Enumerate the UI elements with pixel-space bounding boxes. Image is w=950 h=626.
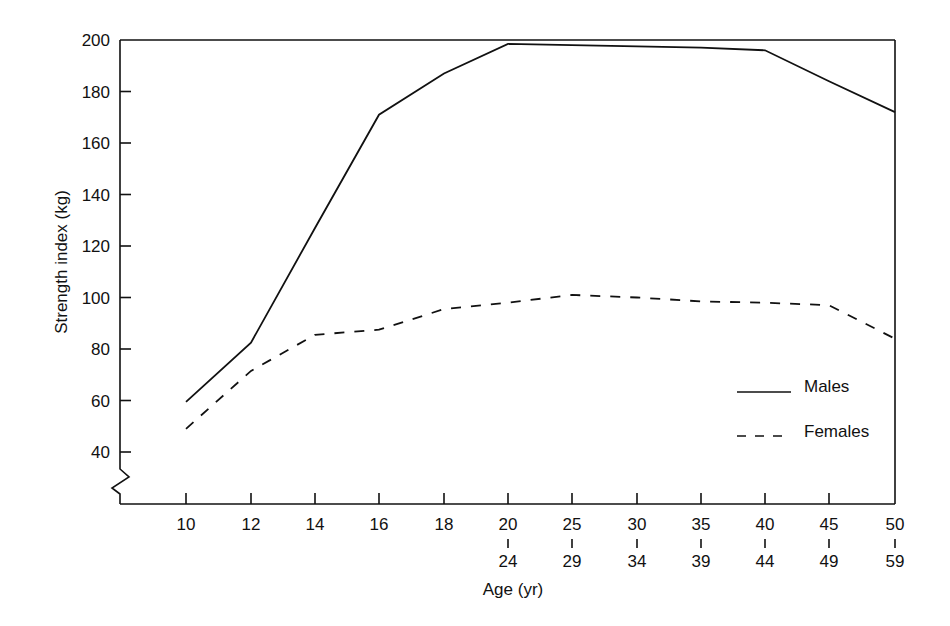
x-tick-label-top: 10 (177, 515, 196, 534)
series-line-females (186, 295, 895, 429)
x-tick-label-bottom: 59 (886, 552, 905, 571)
y-tick-label: 100 (82, 289, 110, 308)
x-tick-label-top: 12 (242, 515, 261, 534)
plot-frame (112, 40, 895, 504)
x-tick-label-bottom: 34 (628, 552, 647, 571)
x-tick-label-top: 30 (628, 515, 647, 534)
y-tick-label: 200 (82, 31, 110, 50)
x-tick-label-bottom: 29 (563, 552, 582, 571)
legend: Males Females (737, 377, 869, 441)
y-axis-ticks: 406080100120140160180200 (82, 31, 131, 462)
x-tick-label-top: 45 (820, 515, 839, 534)
x-tick-label-top: 20 (499, 515, 518, 534)
x-tick-label-bottom: 44 (756, 552, 775, 571)
x-tick-label-bottom: 39 (692, 552, 711, 571)
y-tick-label: 160 (82, 134, 110, 153)
y-tick-label: 180 (82, 83, 110, 102)
y-tick-label: 140 (82, 186, 110, 205)
x-tick-label-top: 18 (435, 515, 454, 534)
series-line-males (186, 44, 895, 402)
x-tick-label-bottom: 24 (499, 552, 518, 571)
x-tick-label-top: 16 (370, 515, 389, 534)
x-tick-label-bottom: 49 (820, 552, 839, 571)
y-tick-label: 40 (91, 443, 110, 462)
x-tick-label-top: 50 (886, 515, 905, 534)
x-tick-label-top: 14 (306, 515, 325, 534)
x-tick-label-top: 40 (756, 515, 775, 534)
y-tick-label: 80 (91, 340, 110, 359)
y-axis-title: Strength index (kg) (52, 190, 71, 334)
legend-females-label: Females (804, 422, 869, 441)
y-axis-line (112, 40, 129, 504)
y-tick-label: 120 (82, 237, 110, 256)
y-tick-label: 60 (91, 392, 110, 411)
x-tick-label-top: 35 (692, 515, 711, 534)
series-layer (186, 44, 895, 429)
legend-males-label: Males (804, 377, 849, 396)
x-axis-title: Age (yr) (483, 580, 543, 599)
x-tick-label-top: 25 (563, 515, 582, 534)
legend-item-females: Females (737, 422, 869, 441)
legend-item-males: Males (737, 377, 849, 396)
strength-index-chart: 406080100120140160180200 101214161820242… (0, 0, 950, 626)
